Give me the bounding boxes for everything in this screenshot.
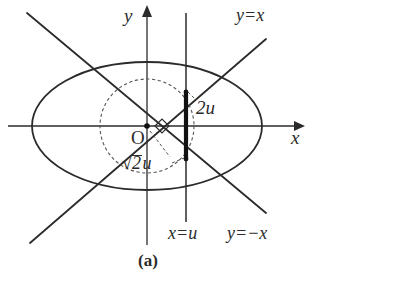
origin-label: O: [131, 128, 145, 147]
segment-endpoint-bottom: [184, 157, 189, 162]
radical-overbar: [131, 155, 142, 156]
x-axis-label: x: [291, 128, 299, 147]
line-y-equals-x: [30, 39, 266, 243]
y-axis-arrowhead: [142, 5, 152, 17]
radius-leader-line: [150, 131, 170, 157]
geometry-diagram: [0, 0, 398, 282]
radius-unit: u: [142, 153, 151, 173]
y-axis-label: y: [124, 6, 132, 25]
radical-sign: √: [122, 154, 132, 172]
segment-label-leader: [188, 92, 196, 100]
figure-container: y x O y=x 2u x=u y=−x √ 2 u (a): [0, 0, 398, 282]
figure-caption: (a): [138, 252, 158, 269]
radius-label-leader: [172, 158, 184, 163]
radius-sqrt2u-label: √ 2 u: [122, 154, 151, 172]
line-y-equals-negative-x-label: y=−x: [227, 224, 267, 242]
segment-endpoint-top: [184, 90, 189, 95]
segment-2u-label: 2u: [196, 98, 215, 117]
line-x-equals-u-label: x=u: [168, 224, 197, 242]
line-y-equals-x-label: y=x: [236, 6, 264, 24]
origin-point: [144, 123, 150, 129]
